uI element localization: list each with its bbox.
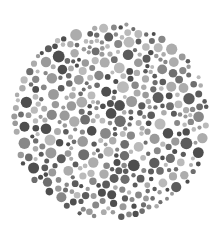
plate-dot	[166, 102, 174, 110]
plate-dot	[44, 172, 49, 177]
plate-dot	[171, 182, 181, 192]
plate-dot	[70, 189, 75, 194]
plate-dot	[36, 69, 40, 73]
plate-dot	[26, 68, 33, 75]
plate-dot	[195, 91, 202, 98]
plate-dot	[94, 106, 98, 110]
plate-dot	[68, 66, 74, 72]
plate-dot	[160, 79, 167, 86]
plate-dot	[185, 180, 189, 184]
plate-dot	[96, 100, 100, 104]
plate-dot	[98, 189, 106, 197]
plate-dot	[139, 208, 145, 214]
plate-dot	[174, 120, 180, 126]
plate-dot	[99, 52, 104, 57]
plate-dot	[16, 98, 20, 102]
plate-dot	[143, 196, 149, 202]
plate-dot	[33, 138, 38, 143]
plate-dot	[156, 167, 164, 175]
plate-dot	[41, 84, 47, 90]
plate-dot	[197, 126, 201, 130]
plate-dot	[64, 203, 70, 209]
plate-dot	[134, 30, 142, 38]
plate-dot	[193, 147, 204, 158]
plate-dot	[159, 86, 164, 91]
plate-dot	[127, 122, 131, 126]
plate-dot	[143, 69, 148, 74]
plate-dot	[149, 38, 155, 44]
plate-dot	[144, 141, 148, 145]
plate-dot	[186, 59, 191, 64]
plate-dot	[133, 211, 139, 217]
plate-dot	[80, 129, 85, 134]
plate-dot	[78, 149, 89, 160]
plate-dot	[166, 44, 177, 55]
plate-dot	[137, 110, 143, 116]
plate-dot	[51, 64, 56, 69]
plate-dot	[94, 82, 100, 88]
plate-dot	[71, 59, 75, 63]
plate-dot	[107, 100, 114, 107]
plate-dot	[69, 116, 79, 126]
plate-dot	[115, 148, 119, 152]
plate-dot	[179, 67, 186, 74]
plate-dot	[48, 89, 59, 100]
plate-dot	[179, 54, 186, 61]
plate-dot	[131, 27, 135, 31]
plate-dot	[73, 162, 79, 168]
plate-dot	[110, 70, 114, 74]
plate-dot	[153, 105, 157, 109]
plate-dot	[100, 104, 106, 110]
plate-dot	[111, 96, 116, 101]
plate-dot	[142, 75, 149, 82]
plate-dot	[121, 163, 126, 168]
plate-dot	[88, 85, 92, 89]
plate-dot	[134, 70, 140, 76]
plate-dot	[183, 107, 189, 113]
plate-dot	[100, 198, 106, 204]
plate-dot	[91, 141, 96, 146]
plate-dot	[39, 144, 45, 150]
plate-dot	[32, 86, 39, 93]
plate-dot	[112, 90, 117, 95]
plate-dot	[58, 65, 68, 75]
plate-dot	[145, 189, 150, 194]
plate-dot	[120, 131, 126, 137]
plate-dot	[33, 94, 39, 100]
plate-dot	[152, 187, 156, 191]
plate-dot	[191, 169, 196, 174]
plate-dot	[171, 111, 177, 117]
plate-dot	[45, 147, 56, 158]
plate-dot	[52, 44, 58, 50]
plate-dot	[193, 112, 204, 123]
plate-dot	[65, 150, 72, 157]
plate-dot	[74, 75, 84, 85]
plate-dot	[55, 185, 61, 191]
plate-dot	[197, 133, 207, 143]
plate-dot	[198, 83, 203, 88]
plate-dot	[196, 103, 203, 110]
plate-dot	[76, 97, 87, 108]
plate-dot	[123, 50, 134, 61]
plate-dots	[11, 23, 209, 221]
plate-dot	[41, 124, 52, 135]
plate-dot	[131, 82, 138, 89]
plate-dot	[180, 171, 188, 179]
plate-dot	[181, 152, 186, 157]
plate-dot	[138, 102, 145, 109]
plate-dot	[175, 92, 180, 97]
plate-dot	[133, 182, 138, 187]
plate-dot	[166, 144, 172, 150]
plate-dot	[163, 128, 173, 138]
plate-dot	[123, 169, 128, 174]
plate-dot	[103, 163, 110, 170]
plate-dot	[140, 126, 145, 131]
plate-dot	[88, 157, 98, 167]
plate-dot	[29, 82, 34, 87]
plate-dot	[155, 119, 166, 130]
plate-dot	[109, 137, 116, 144]
plate-dot	[110, 174, 119, 183]
plate-dot	[80, 115, 90, 125]
plate-dot	[28, 163, 39, 174]
plate-dot	[81, 207, 86, 212]
